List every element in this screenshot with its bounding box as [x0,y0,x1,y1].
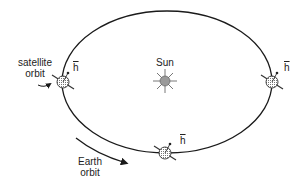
sun-label: Sun [154,57,176,68]
sun-icon [153,69,177,93]
satellite-orbit-label-line1: satellite [10,57,60,68]
earth-orbit-label-line2: orbit [70,167,110,178]
earth-bottom-icon [154,143,176,160]
orbit-diagram [0,0,305,188]
angular-momentum-label-bottom: h [180,135,186,146]
earth-orbit-label-line1: Earth [70,156,110,167]
angular-momentum-label-left: h [73,62,79,73]
satellite-orbit-arrow [38,84,50,86]
angular-momentum-label-right: h [284,62,290,73]
satellite-orbit-label-line2: orbit [10,68,60,79]
